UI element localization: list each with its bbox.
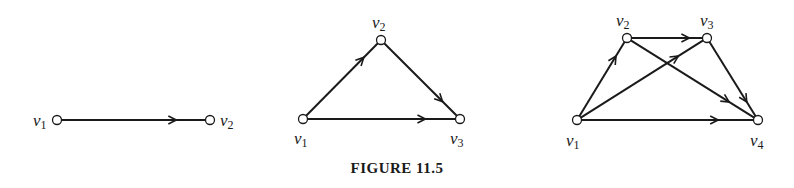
graph-3: v1v2v3v4 <box>566 11 764 152</box>
vertex-v2 <box>377 36 386 45</box>
vertex-v3 <box>456 115 465 124</box>
vertex-label-v3: v3 <box>700 11 714 32</box>
graph-2: v1v2v3 <box>294 13 465 150</box>
vertex-v1 <box>53 116 62 125</box>
vertex-label-v2: v2 <box>616 11 630 32</box>
vertex-v3 <box>703 34 712 43</box>
figure-caption: FIGURE 11.5 <box>0 160 794 177</box>
vertex-v4 <box>754 116 763 125</box>
edge-v1-v3 <box>581 40 703 117</box>
vertex-label-v1: v1 <box>566 131 580 152</box>
vertex-label-v3: v3 <box>450 129 464 150</box>
graph-1: v1v2 <box>33 111 234 132</box>
vertex-v1 <box>299 115 308 124</box>
vertex-v2 <box>623 34 632 43</box>
edge-v1-v2 <box>306 43 378 116</box>
vertex-v1 <box>573 116 582 125</box>
vertex-label-v1: v1 <box>33 111 47 132</box>
vertex-label-v1: v1 <box>294 129 308 150</box>
vertex-label-v4: v4 <box>750 131 764 152</box>
vertex-v2 <box>206 116 215 125</box>
vertex-label-v2: v2 <box>220 111 234 132</box>
edge-v2-v3 <box>384 43 457 116</box>
vertex-label-v2: v2 <box>372 13 386 34</box>
edge-v2-v4 <box>631 40 754 117</box>
